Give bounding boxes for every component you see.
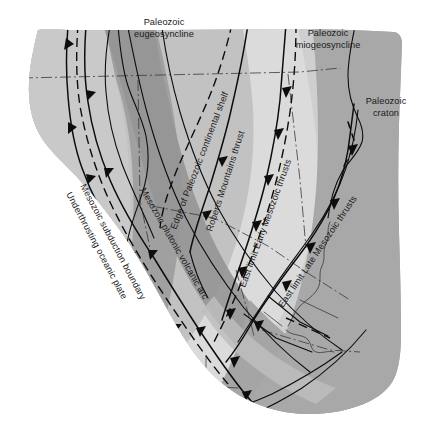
- thrust-tooth: [216, 388, 226, 399]
- tectonic-map-figure: Paleozoic eugeosyncline Paleozoic miogeo…: [0, 0, 437, 438]
- label-miogeosyncline-line2: miogeosyncline: [296, 40, 361, 50]
- label-eugeosyncline-line2: eugeosyncline: [134, 29, 194, 39]
- thrust-tooth: [224, 412, 234, 424]
- label-eugeosyncline-line1: Paleozoic: [144, 17, 185, 27]
- label-paleozoic-eugeosyncline: Paleozoic eugeosyncline: [134, 17, 194, 39]
- tectonic-map-svg: Paleozoic eugeosyncline Paleozoic miogeo…: [0, 0, 437, 438]
- label-miogeosyncline-line1: Paleozoic: [308, 28, 349, 38]
- region-underthrusting-oceanic-plate: [0, 0, 130, 438]
- thrust-tooth: [186, 370, 196, 382]
- label-craton-line2: craton: [373, 108, 399, 118]
- label-craton-line1: Paleozoic: [366, 96, 407, 106]
